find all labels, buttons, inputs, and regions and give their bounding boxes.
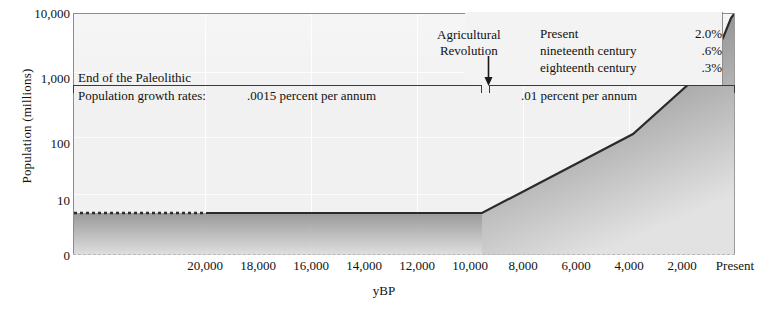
- agricultural-revolution-line1: Agricultural: [437, 27, 501, 43]
- bracket-early-era: [73, 85, 482, 93]
- agricultural-revolution-label: Agricultural Revolution: [437, 27, 501, 59]
- x-tick-8000: 8,000: [508, 258, 537, 274]
- end-of-paleolithic-label: End of the Paleolithic: [78, 70, 191, 85]
- x-axis-title: yBP: [0, 283, 768, 299]
- x-tick-2000: 2,000: [667, 258, 696, 274]
- x-tick-present: Present: [716, 258, 754, 274]
- x-tick-18000: 18,000: [240, 258, 276, 274]
- rate-value: 2.0%: [695, 25, 722, 42]
- table-row: nineteenth century .6%: [540, 42, 722, 59]
- x-axis-ticks: 20,000 18,000 16,000 14,000 12,000 10,00…: [0, 258, 768, 278]
- table-row: eighteenth century .3%: [540, 59, 722, 76]
- rate-value: .6%: [701, 42, 722, 59]
- plot-frame-right: [734, 13, 735, 255]
- table-row: Present 2.0%: [540, 25, 722, 42]
- x-tick-16000: 16,000: [293, 258, 329, 274]
- y-tick-100: 100: [4, 137, 70, 150]
- x-tick-6000: 6,000: [561, 258, 590, 274]
- x-tick-12000: 12,000: [399, 258, 435, 274]
- rate-value: .3%: [701, 59, 722, 76]
- y-tick-10: 10: [4, 194, 70, 207]
- plot-frame-left: [73, 13, 74, 255]
- down-arrow-icon: [484, 56, 493, 86]
- growth-rate-table: Present 2.0% nineteenth century .6% eigh…: [540, 25, 722, 76]
- bracket-late-era: [489, 85, 735, 93]
- chart-figure: Population (millions) 10,000 1,000 100 1…: [0, 0, 768, 311]
- x-tick-4000: 4,000: [614, 258, 643, 274]
- x-tick-10000: 10,000: [452, 258, 488, 274]
- x-tick-14000: 14,000: [346, 258, 382, 274]
- rate-period: nineteenth century: [540, 42, 636, 59]
- rate-period: Present: [540, 25, 578, 42]
- y-tick-1000: 1,000: [4, 72, 70, 85]
- rate-period: eighteenth century: [540, 59, 636, 76]
- x-tick-20000: 20,000: [187, 258, 223, 274]
- y-tick-10000: 10,000: [4, 7, 70, 20]
- zero-baseline: [73, 254, 735, 255]
